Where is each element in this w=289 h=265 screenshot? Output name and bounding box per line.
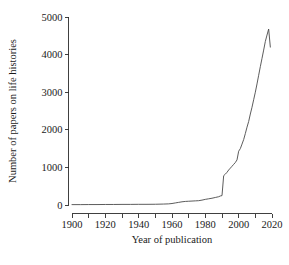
chart-figure: 010002000300040005000 190019201940196019… [0,0,289,265]
x-tick-label-1900: 1900 [62,219,83,230]
x-tick-label-1960: 1960 [162,219,183,230]
y-tick-label-0: 0 [57,200,62,211]
y-axis-ticks [65,17,69,205]
x-axis-title: Year of publication [132,234,213,245]
x-tick-label-1940: 1940 [128,219,149,230]
y-axis-title: Number of papers on life histories [7,39,18,183]
y-tick-label-4000: 4000 [42,49,63,60]
y-tick-label-3000: 3000 [42,87,63,98]
line-chart: 010002000300040005000 190019201940196019… [0,0,289,265]
x-tick-label-1920: 1920 [95,219,116,230]
x-axis-ticks [72,214,272,218]
x-tick-label-2000: 2000 [228,219,249,230]
y-axis-tick-labels: 010002000300040005000 [42,12,63,211]
y-tick-label-2000: 2000 [42,124,63,135]
x-tick-label-2020: 2020 [262,219,283,230]
x-tick-label-1980: 1980 [195,219,216,230]
x-axis-tick-labels: 1900192019401960198020002020 [62,219,283,230]
y-tick-label-1000: 1000 [42,162,63,173]
data-series-line [72,29,270,205]
y-tick-label-5000: 5000 [42,12,63,23]
